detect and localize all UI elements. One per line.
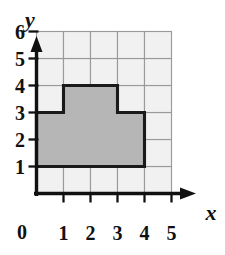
grid-cell <box>145 140 172 167</box>
x-axis-arrowhead <box>180 188 196 200</box>
y-tick-label: 6 <box>15 21 25 43</box>
grid-cell <box>91 59 118 86</box>
origin-label: 0 <box>17 221 27 243</box>
y-tick-label: 4 <box>15 75 25 97</box>
y-tick-label: 5 <box>15 48 25 70</box>
grid-cell <box>64 167 91 194</box>
grid-cell <box>118 167 145 194</box>
grid-cell <box>118 86 145 113</box>
grid-cell <box>145 32 172 59</box>
x-axis-name: x <box>205 200 217 225</box>
y-tick-label: 1 <box>15 156 25 178</box>
grid-cell <box>64 59 91 86</box>
grid-cell <box>118 32 145 59</box>
grid-cell <box>37 59 64 86</box>
y-tick-label: 3 <box>15 102 25 124</box>
coordinate-grid-figure: 12345123456 y x 0 <box>0 0 225 255</box>
x-tick-label: 5 <box>167 222 177 244</box>
grid-cell <box>145 59 172 86</box>
grid-cell <box>118 59 145 86</box>
grid-cell <box>37 86 64 113</box>
grid-cell <box>145 86 172 113</box>
grid-cell <box>64 32 91 59</box>
grid-cell <box>91 32 118 59</box>
y-tick-label: 2 <box>15 129 25 151</box>
grid-cell <box>37 32 64 59</box>
grid-cell <box>91 167 118 194</box>
x-tick-label: 4 <box>140 222 150 244</box>
grid-cell <box>37 167 64 194</box>
coordinate-grid-svg: 12345123456 y x 0 <box>0 0 225 255</box>
x-tick-label: 1 <box>59 222 69 244</box>
grid-cell <box>145 113 172 140</box>
x-tick-label: 3 <box>113 222 123 244</box>
x-tick-label: 2 <box>86 222 96 244</box>
grid-cell <box>145 167 172 194</box>
